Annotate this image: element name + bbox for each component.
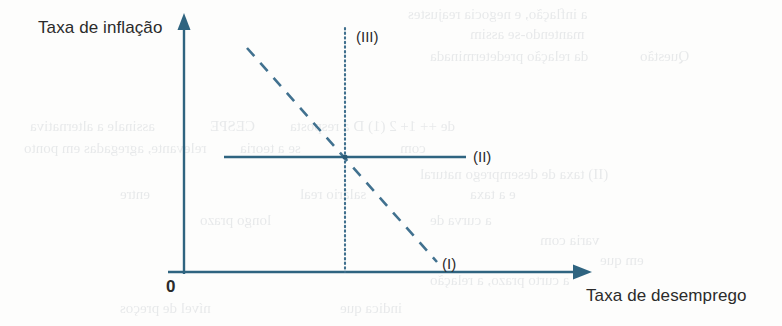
phillips-curve-diagram [0, 0, 782, 326]
x-axis-title: Taxa de desemprego [586, 286, 747, 306]
intersection-point [342, 154, 347, 159]
x-axis-arrowhead [573, 265, 592, 280]
figure-container: a inflação, e negocia reajustesmantendo-… [0, 0, 782, 326]
x-axis [168, 265, 592, 280]
y-axis [178, 13, 191, 274]
y-axis-title: Taxa de inflação [38, 18, 162, 38]
curve-ii-label: (II) [473, 148, 491, 165]
curve-iii-label: (III) [356, 28, 379, 45]
curve-i-line [247, 48, 437, 262]
y-axis-arrowhead [178, 13, 191, 30]
curve-i-label: (I) [442, 255, 456, 272]
origin-label: 0 [166, 277, 175, 297]
